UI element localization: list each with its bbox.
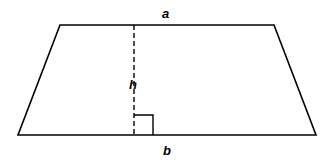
label-h: h — [129, 77, 137, 92]
right-angle-marker — [134, 115, 153, 135]
trapezoid-shape — [18, 25, 316, 135]
label-a: a — [162, 6, 169, 21]
trapezoid-diagram: a h b — [0, 0, 330, 164]
label-b: b — [163, 143, 171, 158]
